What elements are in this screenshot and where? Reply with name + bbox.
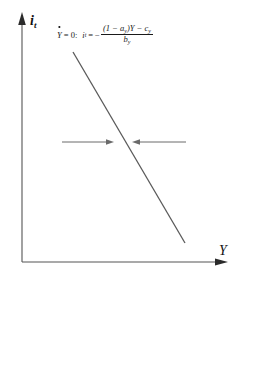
figure-background: [0, 0, 258, 378]
phase-diagram-figure: [0, 0, 258, 378]
